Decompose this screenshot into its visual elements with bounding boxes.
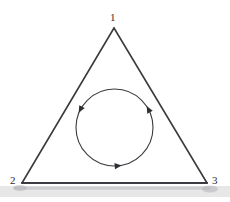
circulation-circle-group (76, 89, 153, 169)
diagram-canvas (0, 0, 230, 202)
scan-smudge-band (0, 185, 230, 197)
vertex-label-3: 3 (212, 175, 218, 186)
figure-container: 1 2 3 (0, 0, 230, 202)
triangle-side-1-3 (114, 28, 207, 183)
circulation-circle (76, 89, 153, 166)
triangle-shape (22, 28, 207, 183)
triangle-side-1-2 (22, 28, 114, 183)
vertex-label-2: 2 (10, 175, 16, 186)
vertex-label-1: 1 (110, 12, 116, 23)
arrowhead-bottom-icon (114, 163, 121, 169)
